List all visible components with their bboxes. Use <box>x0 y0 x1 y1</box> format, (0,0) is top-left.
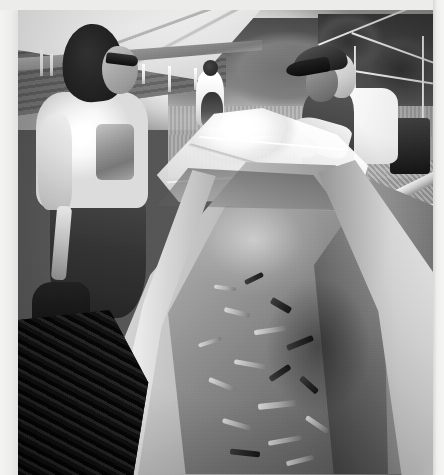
photograph-page <box>0 0 444 475</box>
background-figure-head <box>203 60 218 76</box>
canopy-tie-strap <box>142 64 145 84</box>
canopy-tie-strap <box>50 54 53 76</box>
canopy-tie-strap <box>40 50 43 76</box>
worker-left-shirt-graphic <box>96 124 134 180</box>
mat-border-top <box>0 0 444 10</box>
canopy-tie-strap <box>168 66 171 92</box>
worker-left-arm <box>38 114 72 210</box>
mat-border-right <box>433 0 444 475</box>
photograph <box>18 10 433 475</box>
mat-border-left-gradient <box>0 0 18 475</box>
